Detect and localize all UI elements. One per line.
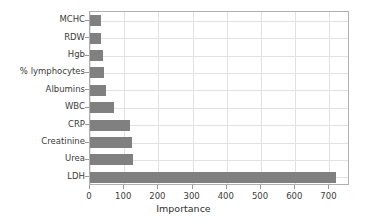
gridline-horizontal bbox=[90, 56, 348, 57]
gridline-horizontal bbox=[90, 21, 348, 22]
y-axis-tick-mark bbox=[85, 159, 89, 160]
x-axis-tick-mark bbox=[123, 185, 124, 189]
x-axis-tick-label: 600 bbox=[286, 191, 302, 201]
y-axis-tick-mark bbox=[85, 124, 89, 125]
y-axis-tick-mark bbox=[85, 37, 89, 38]
y-axis-tick-mark bbox=[85, 176, 89, 177]
y-axis-tick-label: Urea bbox=[0, 154, 85, 163]
bar bbox=[90, 50, 103, 61]
y-axis-tick-label: Albumins bbox=[0, 85, 85, 94]
bar bbox=[90, 172, 336, 183]
x-axis-tick-label: 100 bbox=[115, 191, 131, 201]
y-axis-tick-mark bbox=[85, 55, 89, 56]
bar bbox=[90, 102, 114, 113]
x-axis-tick-labels: 0100200300400500600700 bbox=[0, 185, 367, 205]
x-axis-tick-label: 400 bbox=[218, 191, 234, 201]
x-axis-tick-label: 700 bbox=[320, 191, 336, 201]
y-axis-tick-mark bbox=[85, 72, 89, 73]
y-axis-tick-labels: LDHUreaCreatinineCRPWBCAlbumins% lymphoc… bbox=[0, 11, 85, 185]
gridline-horizontal bbox=[90, 38, 348, 39]
bar bbox=[90, 120, 130, 131]
bar bbox=[90, 85, 106, 96]
y-axis-tick-mark bbox=[85, 142, 89, 143]
y-axis-tick-label: MCHC bbox=[0, 15, 85, 24]
x-axis-tick-mark bbox=[192, 185, 193, 189]
y-axis-tick-label: % lymphocytes bbox=[0, 67, 85, 76]
x-axis-tick-mark bbox=[260, 185, 261, 189]
x-axis-title: Importance bbox=[0, 203, 367, 214]
y-axis-tick-label: RDW bbox=[0, 33, 85, 42]
x-axis-tick-mark bbox=[294, 185, 295, 189]
y-axis-tick-label: Hgb bbox=[0, 50, 85, 59]
bar bbox=[90, 137, 132, 148]
x-axis-tick-label: 0 bbox=[86, 191, 91, 201]
y-axis-tick-label: Creatinine bbox=[0, 137, 85, 146]
x-axis-tick-mark bbox=[226, 185, 227, 189]
x-axis-tick-label: 500 bbox=[252, 191, 268, 201]
y-axis-tick-label: WBC bbox=[0, 102, 85, 111]
y-axis-tick-mark bbox=[85, 20, 89, 21]
gridline-horizontal bbox=[90, 108, 348, 109]
y-axis-tick-mark bbox=[85, 107, 89, 108]
bar bbox=[90, 67, 104, 78]
bar bbox=[90, 154, 133, 165]
x-axis-tick-mark bbox=[328, 185, 329, 189]
x-axis-tick-label: 200 bbox=[149, 191, 165, 201]
x-axis-tick-mark bbox=[157, 185, 158, 189]
y-axis-tick-mark bbox=[85, 89, 89, 90]
bar-chart-figure: LDHUreaCreatinineCRPWBCAlbumins% lymphoc… bbox=[0, 0, 367, 224]
y-axis-tick-label: CRP bbox=[0, 120, 85, 129]
gridline-horizontal bbox=[90, 90, 348, 91]
x-axis-tick-label: 300 bbox=[184, 191, 200, 201]
gridline-horizontal bbox=[90, 73, 348, 74]
bar bbox=[90, 33, 101, 44]
y-axis-tick-label: LDH bbox=[0, 172, 85, 181]
x-axis-tick-mark bbox=[89, 185, 90, 189]
bar bbox=[90, 15, 101, 26]
plot-area bbox=[89, 11, 349, 185]
